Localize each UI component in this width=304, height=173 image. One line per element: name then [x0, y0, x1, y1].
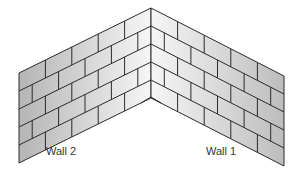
wall-1	[151, 8, 284, 166]
wall-1-label: Wall 1	[206, 145, 236, 157]
wall-2-label: Wall 2	[46, 145, 76, 157]
wall-2	[19, 8, 151, 163]
